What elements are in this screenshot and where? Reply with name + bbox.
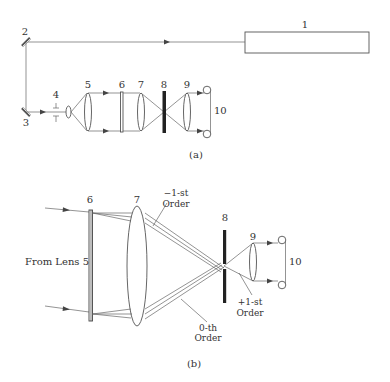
- leader-plus-first: [239, 273, 252, 295]
- caption-a: (a): [189, 149, 203, 160]
- leader-zeroth: [181, 299, 207, 322]
- label-minus-first-line1: −1-st: [164, 188, 189, 198]
- spatial-filter-8-lower: [223, 269, 226, 303]
- converging-beams-bottom: [145, 263, 224, 319]
- panel-b: From Lens 5 6 7: [25, 188, 302, 369]
- small-lens: [66, 106, 71, 118]
- arrow-icon: [103, 129, 109, 134]
- diffraction-fan-top: [93, 213, 133, 221]
- arrow-icon: [197, 91, 203, 96]
- arrow-icon: [63, 207, 70, 212]
- beam-to-lens9-bottom: [224, 266, 253, 281]
- label-from-lens-5: From Lens 5: [25, 256, 89, 267]
- detector-top: [203, 86, 211, 94]
- label-plus-first-line1: +1-st: [238, 297, 263, 307]
- lens-9: [184, 93, 191, 131]
- arrow-icon: [164, 40, 170, 45]
- label-lens-5: 5: [85, 79, 91, 90]
- label-detectors-10: 10: [214, 105, 227, 116]
- lens-5: [85, 93, 92, 131]
- caption-b: (b): [187, 358, 201, 369]
- grating-6: [121, 92, 124, 132]
- detector-top: [278, 236, 286, 244]
- label-grating-6: 6: [119, 79, 125, 90]
- optical-setup-diagram: 1 2 3 4 5: [0, 0, 390, 382]
- arrow-icon: [197, 129, 203, 134]
- spatial-filter-8: [163, 91, 167, 133]
- label-mirror-3: 3: [23, 117, 29, 128]
- lens-7: [138, 93, 145, 131]
- spatial-filter-8-upper: [223, 230, 226, 264]
- label-grating-6: 6: [87, 194, 93, 205]
- label-filter-8: 8: [222, 212, 228, 223]
- arrow-icon: [267, 241, 273, 246]
- label-zeroth-line2: Order: [194, 333, 222, 343]
- label-filter-8: 8: [161, 79, 167, 90]
- label-detectors-10: 10: [289, 256, 302, 267]
- beam-to-lens9-top: [224, 243, 253, 266]
- arrow-icon: [103, 91, 109, 96]
- label-lens-9: 9: [184, 79, 190, 90]
- detector-bottom: [278, 281, 286, 289]
- label-minus-first-line2: Order: [162, 199, 190, 209]
- label-zeroth-line1: 0-th: [199, 323, 217, 333]
- label-lens-7: 7: [138, 79, 144, 90]
- label-mirror-2: 2: [22, 26, 28, 37]
- converging-beams-top: [145, 213, 224, 272]
- lens-9: [250, 243, 257, 281]
- detector-bottom: [203, 130, 211, 138]
- aperture-4: [53, 103, 59, 122]
- lens-7: [127, 206, 147, 326]
- laser-box: [245, 32, 369, 53]
- label-lens-9: 9: [250, 231, 256, 242]
- panel-a: 1 2 3 4 5: [22, 19, 369, 160]
- label-lens-7: 7: [134, 194, 140, 205]
- mirror-2-highlight: [23, 39, 31, 47]
- label-plus-first-line2: Order: [236, 308, 264, 318]
- label-laser: 1: [302, 19, 308, 30]
- arrow-icon: [267, 279, 273, 284]
- arrow-icon: [40, 110, 46, 115]
- label-aperture-4: 4: [53, 89, 59, 100]
- mirror-3-highlight: [23, 108, 31, 116]
- arrow-icon: [63, 306, 70, 311]
- diffraction-fan-bottom: [93, 309, 133, 318]
